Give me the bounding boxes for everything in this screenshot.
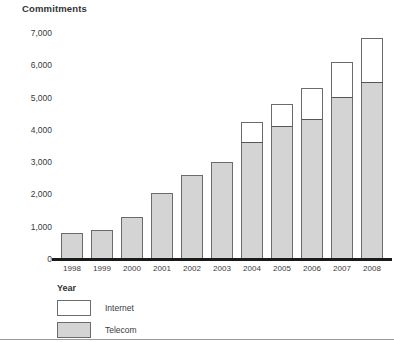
bar-segment-telecom[interactable] (211, 162, 233, 259)
bar-column[interactable] (271, 33, 293, 259)
x-axis-tick-label: 1999 (91, 264, 113, 278)
x-axis-tick-label: 2005 (271, 264, 293, 278)
bar-group (57, 33, 387, 259)
bar-column[interactable] (91, 33, 113, 259)
bar-column[interactable] (301, 33, 323, 259)
y-axis-tick-label: 2,000 (31, 189, 52, 199)
bar-column[interactable] (361, 33, 383, 259)
y-axis-tick-label: 6,000 (31, 60, 52, 70)
bar-column[interactable] (331, 33, 353, 259)
x-axis-tick-label: 2004 (241, 264, 263, 278)
y-axis-tick-label: 3,000 (31, 157, 52, 167)
bar-segment-internet[interactable] (361, 38, 383, 83)
bar-segment-telecom[interactable] (301, 120, 323, 259)
y-axis-tick-label: 1,000 (31, 222, 52, 232)
x-axis-tick-label: 2007 (331, 264, 353, 278)
bar-segment-telecom[interactable] (121, 217, 143, 259)
bar-segment-internet[interactable] (301, 88, 323, 120)
bar-segment-internet[interactable] (241, 122, 263, 143)
bar-column[interactable] (211, 33, 233, 259)
bar-segment-telecom[interactable] (271, 127, 293, 259)
bar-segment-internet[interactable] (271, 104, 293, 127)
chart-figure: Commitments 01,0002,0003,0004,0005,0006,… (0, 0, 394, 342)
legend-item[interactable]: Telecom (57, 320, 137, 340)
plot-area (57, 33, 387, 259)
y-axis-tick-label: 7,000 (31, 28, 52, 38)
y-axis-tick-label: 4,000 (31, 125, 52, 135)
y-axis-tick-labels: 01,0002,0003,0004,0005,0006,0007,000 (0, 0, 52, 342)
x-axis-tick-label: 2006 (301, 264, 323, 278)
bar-segment-telecom[interactable] (91, 230, 113, 259)
legend-label-internet: Internet (105, 303, 134, 313)
chart-legend: InternetTelecom (57, 298, 137, 342)
bar-column[interactable] (181, 33, 203, 259)
bar-segment-telecom[interactable] (61, 233, 83, 259)
y-axis-tick-label: 5,000 (31, 93, 52, 103)
bar-segment-telecom[interactable] (331, 98, 353, 259)
x-axis-title: Year (57, 283, 76, 293)
bar-segment-telecom[interactable] (181, 175, 203, 259)
footer-divider (0, 339, 394, 340)
x-axis-tick-labels: 1998199920002001200220032004200520062007… (57, 264, 387, 278)
legend-label-telecom: Telecom (105, 325, 137, 335)
bar-column[interactable] (241, 33, 263, 259)
legend-swatch-telecom (57, 322, 91, 338)
x-axis-tick-label: 2001 (151, 264, 173, 278)
x-axis-tick-label: 1998 (61, 264, 83, 278)
legend-swatch-internet (57, 300, 91, 316)
x-axis-line (52, 258, 392, 261)
legend-item[interactable]: Internet (57, 298, 137, 318)
x-axis-tick-label: 2003 (211, 264, 233, 278)
bar-segment-telecom[interactable] (361, 83, 383, 259)
bar-column[interactable] (151, 33, 173, 259)
x-axis-tick-label: 2008 (361, 264, 383, 278)
bar-segment-telecom[interactable] (241, 143, 263, 259)
x-axis-tick-label: 2000 (121, 264, 143, 278)
x-axis-tick-label: 2002 (181, 264, 203, 278)
bar-segment-telecom[interactable] (151, 193, 173, 259)
bar-segment-internet[interactable] (331, 62, 353, 98)
bar-column[interactable] (61, 33, 83, 259)
bar-column[interactable] (121, 33, 143, 259)
